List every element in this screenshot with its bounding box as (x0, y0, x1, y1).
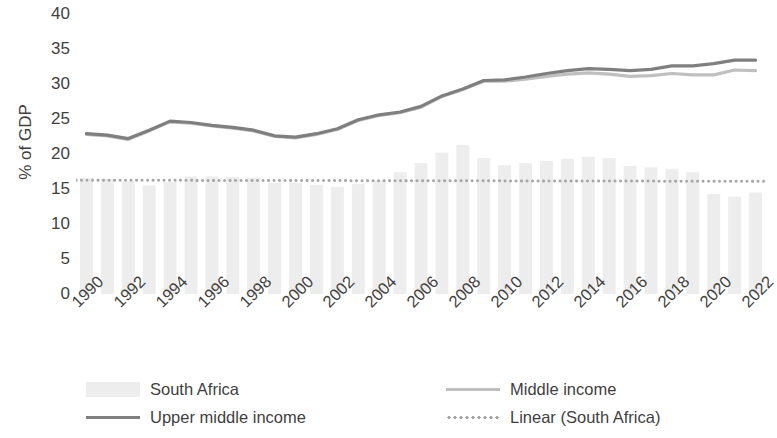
y-axis-tick: 5 (24, 250, 70, 267)
bar (645, 167, 658, 294)
bar (519, 163, 532, 294)
y-axis-tick: 20 (24, 145, 70, 162)
bar (143, 186, 156, 295)
bar (435, 153, 448, 294)
bar (394, 172, 407, 294)
legend-label: Middle income (510, 380, 616, 399)
bar (352, 184, 365, 294)
bar (268, 183, 281, 294)
legend-item[interactable]: Middle income (446, 376, 616, 402)
plot-area (76, 14, 766, 294)
bar (226, 177, 239, 294)
legend-swatch-dotted-swatch (446, 410, 500, 424)
chart-legend: South AfricaMiddle incomeUpper middle in… (86, 376, 746, 434)
legend-label: South Africa (150, 380, 239, 399)
bar (477, 158, 490, 294)
legend-label: Upper middle income (150, 408, 306, 427)
legend-item[interactable]: South Africa (86, 376, 239, 402)
bar-series-south-africa (80, 145, 762, 294)
legend-item[interactable]: Upper middle income (86, 404, 306, 430)
y-axis-tick: 35 (24, 40, 70, 57)
y-axis-tick: 0 (24, 285, 70, 302)
y-axis-tick: 40 (24, 5, 70, 22)
legend-swatch-bar-swatch (86, 382, 140, 397)
y-axis-tick: 10 (24, 215, 70, 232)
legend-item[interactable]: Linear (South Africa) (446, 404, 660, 430)
y-axis-tick: 30 (24, 75, 70, 92)
y-axis-tick: 25 (24, 110, 70, 127)
legend-swatch-line-swatch (446, 382, 500, 396)
bar (686, 172, 699, 294)
bar (603, 158, 616, 294)
line-series-upper-middle-income (86, 60, 755, 138)
y-axis-tick: 15 (24, 180, 70, 197)
legend-label: Linear (South Africa) (510, 408, 660, 427)
bar (185, 176, 198, 294)
x-axis-tick-labels: 1990199219941996199820002002200420062008… (76, 298, 766, 368)
y-axis-tick-labels: 4035302520151050 (18, 0, 70, 300)
bar (310, 185, 323, 294)
legend-swatch-line-swatch (86, 410, 140, 424)
bar (561, 159, 574, 294)
bar (456, 145, 469, 294)
bar (101, 179, 114, 294)
